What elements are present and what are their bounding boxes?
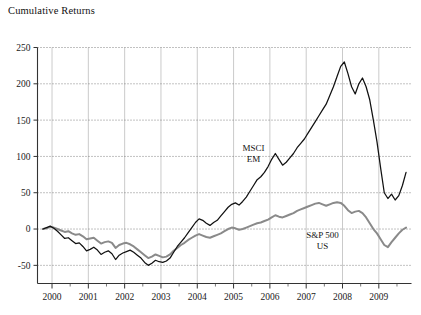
y-tick-label: 200 (16, 79, 31, 89)
y-tick-label: 0 (26, 224, 31, 234)
vertical-gridlines (52, 48, 379, 284)
x-axis-ticks: 2000200120022003200420052006200720082009 (43, 284, 397, 302)
y-tick-label: 100 (16, 152, 31, 162)
x-tick-label: 2002 (115, 292, 134, 302)
x-tick-label: 2005 (224, 292, 243, 302)
x-tick-label: 2008 (333, 292, 352, 302)
x-tick-label: 2004 (188, 292, 207, 302)
horizontal-gridlines (38, 48, 412, 266)
y-tick-label: 150 (16, 116, 31, 126)
series-annotation-line2: EM (247, 154, 261, 164)
y-tick-label: -50 (18, 261, 31, 271)
y-tick-label: 250 (16, 43, 31, 53)
y-axis-ticks: -50050100150200250 (16, 43, 37, 271)
x-tick-label: 2007 (297, 292, 316, 302)
x-tick-label: 2003 (151, 292, 170, 302)
line-chart-plot: -50050100150200250 200020012002200320042… (0, 0, 421, 315)
x-tick-label: 2009 (369, 292, 388, 302)
series-annotations: MSCIEMS&P 500US (243, 143, 340, 252)
y-tick-label: 50 (21, 188, 31, 198)
series-line (43, 62, 406, 265)
x-tick-label: 2006 (260, 292, 279, 302)
series-annotation-line1: S&P 500 (306, 230, 339, 240)
x-tick-label: 2000 (43, 292, 62, 302)
series-annotation-line1: MSCI (243, 143, 265, 153)
cumulative-returns-figure: Cumulative Returns -50050100150200250 20… (0, 0, 421, 315)
data-series-group (43, 62, 406, 265)
series-annotation-line2: US (317, 241, 329, 251)
x-tick-label: 2001 (79, 292, 98, 302)
